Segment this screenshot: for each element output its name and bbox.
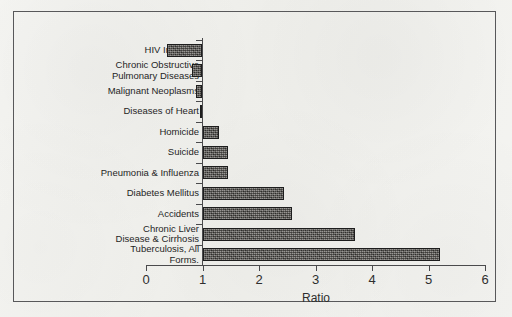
bar bbox=[200, 105, 202, 118]
x-axis-tick bbox=[203, 265, 204, 271]
x-axis-tick-label: 6 bbox=[470, 272, 500, 287]
bar bbox=[203, 126, 220, 139]
category-label: Malignant Neoplasms bbox=[22, 86, 202, 97]
x-axis-tick-label: 3 bbox=[301, 272, 331, 287]
plot-area: HIV InfectionChronic ObstructivePulmonar… bbox=[14, 12, 495, 301]
x-axis-tick-label: 4 bbox=[357, 272, 387, 287]
category-label: Pneumonia & Influenza bbox=[22, 168, 202, 179]
x-axis-tick bbox=[485, 265, 486, 271]
x-axis-tick bbox=[372, 265, 373, 271]
y-axis-tick bbox=[196, 122, 202, 123]
y-axis-tick bbox=[196, 183, 202, 184]
x-axis-tick-label: 0 bbox=[131, 272, 161, 287]
category-label-line: Diabetes Mellitus bbox=[22, 188, 199, 199]
bar bbox=[167, 44, 202, 57]
bar bbox=[203, 146, 228, 159]
category-label-line: Pulmonary Diseases bbox=[22, 71, 199, 82]
y-axis-tick bbox=[196, 245, 202, 246]
y-axis-tick bbox=[196, 40, 202, 41]
y-axis-tick bbox=[196, 81, 202, 82]
x-axis-tick bbox=[429, 265, 430, 271]
y-axis-tick bbox=[196, 60, 202, 61]
category-label: Chronic LiverDisease & Cirrhosis bbox=[22, 224, 202, 245]
bar bbox=[196, 85, 202, 98]
bar bbox=[203, 187, 285, 200]
figure-frame: HIV InfectionChronic ObstructivePulmonar… bbox=[13, 11, 496, 302]
y-axis-tick bbox=[196, 142, 202, 143]
x-axis-tick bbox=[259, 265, 260, 271]
y-axis-tick bbox=[196, 163, 202, 164]
x-axis-tick-label: 2 bbox=[244, 272, 274, 287]
category-label-line: Pneumonia & Influenza bbox=[22, 168, 199, 179]
category-label: Suicide bbox=[22, 147, 202, 158]
category-label-line: Suicide bbox=[22, 147, 199, 158]
category-label-line: Forms. bbox=[22, 255, 199, 266]
y-axis-tick bbox=[196, 265, 202, 266]
bar bbox=[203, 166, 228, 179]
category-label: Homicide bbox=[22, 127, 202, 138]
x-axis-tick bbox=[316, 265, 317, 271]
category-label-line: Diseases of Heart bbox=[22, 106, 199, 117]
y-axis-tick bbox=[196, 204, 202, 205]
bar bbox=[203, 228, 356, 241]
category-label: Chronic ObstructivePulmonary Diseases bbox=[22, 60, 202, 81]
y-axis-tick bbox=[196, 101, 202, 102]
x-axis-tick-label: 5 bbox=[414, 272, 444, 287]
category-label: Accidents bbox=[22, 209, 202, 220]
bar bbox=[203, 248, 440, 261]
category-label: Diabetes Mellitus bbox=[22, 188, 202, 199]
bar bbox=[192, 64, 202, 77]
x-axis-tick bbox=[146, 265, 147, 271]
category-label-line: Homicide bbox=[22, 127, 199, 138]
category-label: Tuberculosis, AllForms. bbox=[22, 244, 202, 265]
y-axis-tick bbox=[196, 224, 202, 225]
bar bbox=[203, 207, 292, 220]
category-label-line: Malignant Neoplasms bbox=[22, 86, 199, 97]
category-label-line: Accidents bbox=[22, 209, 199, 220]
x-axis-title: Ratio bbox=[146, 291, 486, 305]
category-label: Diseases of Heart bbox=[22, 106, 202, 117]
x-axis-tick-label: 1 bbox=[188, 272, 218, 287]
